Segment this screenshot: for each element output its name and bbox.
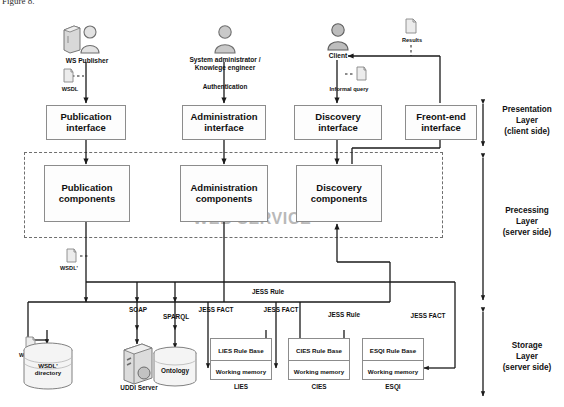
jess-fact-label-1: JESS FACT: [192, 306, 240, 314]
administration-components-line1: Administration: [190, 182, 257, 193]
jess-fact-label-2: JESS FACT: [257, 306, 305, 314]
esqi-engine-caption: ESQI: [362, 383, 424, 391]
lies-engine-box[interactable]: LIES Rule Base Working memory: [210, 338, 272, 380]
wsdl-directory-line2: directory: [35, 369, 61, 376]
jess-fact-label-3: JESS FACT: [404, 312, 452, 320]
discovery-interface-line1: Discovery interface: [295, 112, 381, 134]
client-icon: [327, 22, 349, 52]
lies-working-memory-label: Working memory: [211, 364, 271, 378]
processing-layer-line3: (server side): [503, 228, 552, 237]
wsdl-doc-label: WSDL: [55, 86, 85, 93]
frontend-interface-box[interactable]: Freont-end interface: [405, 105, 477, 140]
results-label: Results: [389, 37, 435, 44]
jess-rule-label-1: JESS Rule: [246, 288, 290, 296]
system-administrator-label: System administrator / Knowlege engineer: [176, 56, 274, 72]
informal-query-document-icon: [356, 66, 367, 81]
sysadmin-line2: Knowlege engineer: [195, 64, 255, 71]
discovery-components-box[interactable]: Discovery components: [296, 165, 382, 222]
processing-layer-line1: Precessing: [505, 206, 549, 215]
informal-query-label: Informal query: [318, 86, 380, 93]
administration-components-line2: components: [196, 193, 252, 204]
system-administrator-icon: [214, 24, 236, 54]
administration-interface-line1: Administration: [190, 111, 257, 122]
cies-engine-caption: CIES: [288, 383, 350, 391]
wsdl-directory-line1: WSDL': [38, 362, 58, 369]
presentation-layer-line3: (client side): [504, 127, 550, 136]
storage-layer-line3: (server side): [503, 363, 552, 372]
publication-components-line1: Publication: [61, 182, 112, 193]
ws-publisher-icon: [62, 24, 112, 54]
storage-layer-line1: Storage: [512, 341, 542, 350]
presentation-layer-line1: Presentation: [502, 105, 552, 114]
ontology-label: Ontology: [152, 367, 198, 375]
wsdl-prime-mid-document-icon: [66, 248, 77, 263]
publication-interface-box[interactable]: Publication interface: [46, 105, 126, 140]
wsdl-directory-label: WSDL' directory: [22, 362, 74, 377]
frontend-interface-line2: interface: [421, 122, 461, 133]
authentication-label: Authentication: [193, 83, 257, 91]
wsdl-prime-mid-label: WSDL': [52, 265, 86, 272]
jess-rule-label-2: JESS Rule: [322, 311, 366, 319]
presentation-layer-line2: Layer: [516, 116, 538, 125]
discovery-interface-box[interactable]: Discovery interface: [294, 105, 382, 140]
esqi-engine-box[interactable]: ESQI Rule Base Working memory: [362, 338, 424, 380]
cies-rule-base-label: CIES Rule Base: [289, 343, 349, 358]
publication-interface-line2: interface: [66, 122, 106, 133]
cies-working-memory-label: Working memory: [289, 364, 349, 378]
discovery-components-line1: Discovery: [316, 182, 361, 193]
frontend-interface-line1: Freont-end: [416, 111, 466, 122]
processing-layer-label: Precessing Layer (server side): [492, 205, 562, 238]
processing-layer-line2: Layer: [516, 217, 538, 226]
lies-engine-caption: LIES: [210, 383, 272, 391]
administration-interface-box[interactable]: Administration interface: [182, 105, 266, 140]
esqi-rule-base-label: ESQI Rule Base: [363, 343, 423, 358]
sparql-label: SPARQL: [155, 313, 197, 321]
storage-layer-line2: Layer: [516, 352, 538, 361]
publication-components-box[interactable]: Publication components: [44, 165, 130, 222]
publication-interface-line1: Publication: [60, 111, 111, 122]
architecture-diagram: Figure 8. WEB SERVICE: [0, 0, 564, 407]
presentation-layer-label: Presentation Layer (client side): [492, 104, 562, 137]
lies-rule-base-label: LIES Rule Base: [211, 343, 271, 358]
administration-components-box[interactable]: Administration components: [180, 165, 268, 222]
ws-publisher-label: WS Publisher: [52, 57, 122, 65]
wsdl-document-icon: [63, 68, 74, 83]
client-label: Client: [312, 52, 364, 60]
administration-interface-line2: interface: [204, 122, 244, 133]
sysadmin-line1: System administrator /: [189, 56, 260, 63]
esqi-working-memory-label: Working memory: [363, 364, 423, 378]
soap-label: SOAP: [118, 306, 158, 314]
cies-engine-box[interactable]: CIES Rule Base Working memory: [288, 338, 350, 380]
discovery-components-line2: components: [311, 193, 367, 204]
storage-layer-label: Storage Layer (server side): [492, 340, 562, 373]
publication-components-line2: components: [59, 193, 115, 204]
results-document-icon: [405, 18, 417, 34]
